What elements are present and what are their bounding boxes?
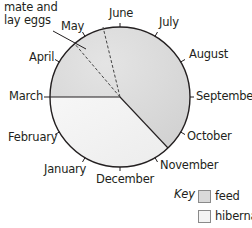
- key-label-feed: feed: [215, 191, 240, 203]
- annotation-line-2: lay eggs: [4, 14, 58, 27]
- month-label-december: December: [96, 174, 154, 186]
- key-swatch-feed: [198, 190, 211, 203]
- month-label-august: August: [189, 49, 228, 61]
- month-label-january: January: [44, 164, 86, 176]
- month-label-july: July: [159, 17, 179, 29]
- month-label-february: February: [8, 132, 57, 144]
- month-label-october: October: [187, 131, 232, 143]
- month-label-november: November: [160, 160, 218, 172]
- key-swatch-hibernate: [198, 210, 211, 223]
- key-title: Key: [174, 187, 195, 201]
- month-label-april: April: [29, 52, 54, 64]
- month-label-march: March: [9, 91, 43, 103]
- month-label-june: June: [109, 8, 133, 20]
- key-label-hibernate: hibernate: [215, 211, 252, 223]
- mate-lay-eggs-annotation: mate and lay eggs: [4, 1, 58, 27]
- month-label-september: September: [196, 91, 252, 103]
- month-label-may: May: [61, 21, 84, 33]
